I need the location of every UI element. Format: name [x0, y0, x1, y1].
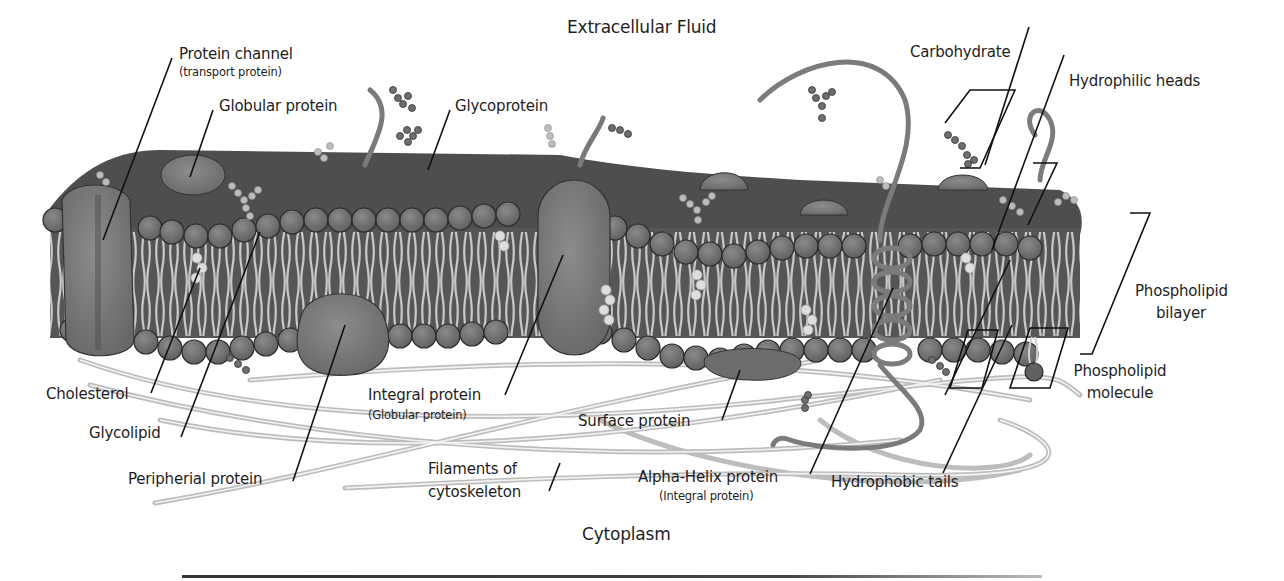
label-integral-protein-sub: (Globular protein)	[368, 408, 467, 422]
bottom-divider-rule	[182, 575, 1042, 578]
label-peripheral-protein: Peripherial protein	[128, 470, 262, 488]
surface-protein	[704, 348, 801, 380]
label-hydrophobic-tails: Hydrophobic tails	[831, 473, 958, 491]
label-carbohydrate: Carbohydrate	[910, 43, 1011, 61]
label-hydrophilic-heads: Hydrophilic heads	[1069, 72, 1200, 90]
label-phospholipid-molecule: Phospholipid molecule	[1068, 362, 1172, 402]
label-glycoprotein: Glycoprotein	[455, 97, 548, 115]
label-alpha-helix-protein: Alpha-Helix protein	[638, 468, 778, 486]
membrane-diagram: Extracellular Fluid Cytoplasm Protein ch…	[0, 0, 1284, 581]
region-extracellular-fluid: Extracellular Fluid	[567, 18, 716, 36]
peripheral-protein	[297, 294, 389, 376]
region-cytoplasm: Cytoplasm	[582, 525, 671, 543]
label-alpha-helix-sub: (Integral protein)	[659, 489, 753, 503]
globular-protein	[161, 155, 225, 195]
label-protein-channel-sub: (transport protein)	[179, 65, 282, 79]
label-globular-protein: Globular protein	[219, 97, 337, 115]
label-filaments-line2: cytoskeleton	[428, 483, 521, 501]
label-phospholipid-bilayer-line2: bilayer	[1135, 304, 1227, 322]
label-phospholipid-bilayer-line1: Phospholipid	[1135, 282, 1227, 300]
label-filaments-line1: Filaments of	[428, 460, 517, 478]
integral-protein	[538, 180, 610, 355]
label-surface-protein: Surface protein	[578, 412, 690, 430]
label-cholesterol: Cholesterol	[46, 385, 128, 403]
label-phospholipid-molecule-line1: Phospholipid	[1068, 362, 1172, 380]
label-phospholipid-bilayer: Phospholipid bilayer	[1135, 282, 1227, 322]
label-glycolipid: Glycolipid	[89, 424, 161, 442]
label-protein-channel: Protein channel	[179, 45, 293, 63]
label-integral-protein: Integral protein	[368, 386, 481, 404]
label-phospholipid-molecule-line2: molecule	[1068, 384, 1172, 402]
